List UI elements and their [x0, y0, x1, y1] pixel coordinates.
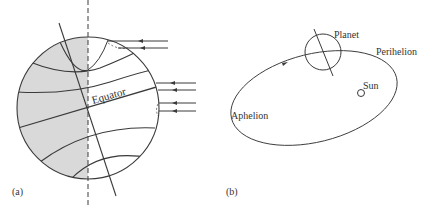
sun-label: Sun: [363, 80, 379, 91]
panel-a-label: (a): [12, 186, 23, 198]
panel-b: Planet Perihelion Sun Aphelion (b): [221, 29, 417, 198]
night-side-shading: [0, 0, 88, 208]
orbit-direction-arrow: [282, 62, 288, 66]
planet-label: Planet: [334, 29, 359, 40]
perihelion-label: Perihelion: [376, 46, 417, 57]
sunlight-rays: [108, 39, 196, 113]
equator-label: Equator: [90, 85, 127, 106]
aphelion-label: Aphelion: [231, 110, 268, 121]
incidence-arc-side: [157, 104, 159, 116]
figure-canvas: Equator (a) Planet Perihelion Sun Apheli…: [0, 0, 432, 208]
panel-a: Equator (a): [0, 0, 196, 208]
panel-b-label: (b): [226, 186, 238, 198]
